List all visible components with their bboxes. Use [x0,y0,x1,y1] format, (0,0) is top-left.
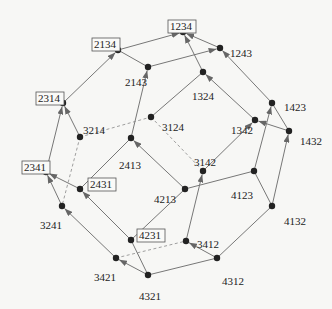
node-label-3421: 3421 [94,271,116,283]
edge-2134-1234 [118,33,180,50]
node-4132 [269,203,275,209]
edge-3421-3412 [116,241,186,258]
node-label-2341: 2341 [24,161,46,173]
edge-1243-1234 [186,33,220,48]
node-label-1234: 1234 [170,20,193,32]
node-3124 [148,114,154,120]
edge-2431-2341 [49,174,80,189]
edge-4123-1423 [254,106,271,171]
edge-3412-3142 [186,174,202,241]
edge-3214-3241 [62,137,80,206]
node-3142 [200,168,206,174]
node-label-2314: 2314 [38,92,61,104]
node-1243 [217,45,223,51]
labels-layer: 1234213412432143132423143214312414231342… [22,20,322,302]
node-label-2431: 2431 [90,178,112,190]
node-label-3412: 3412 [197,238,219,250]
edge-4321-4312 [148,258,217,275]
node-label-4123: 4123 [231,189,254,201]
node-label-4132: 4132 [284,215,306,227]
permutohedron-diagram: 1234213412432143132423143214312414231342… [0,0,332,309]
edge-4321-3421 [119,260,148,275]
node-label-2143: 2143 [125,76,148,88]
edge-4213-2413 [134,140,185,189]
node-4213 [182,186,188,192]
diagram-canvas: 1234213412432143132423143214312414231342… [0,0,332,309]
node-label-3124: 3124 [162,121,185,133]
node-label-3241: 3241 [40,219,62,231]
node-label-3214: 3214 [83,124,106,136]
node-label-4321: 4321 [139,290,161,302]
node-1342 [252,117,258,123]
node-3412 [183,238,189,244]
edge-3241-2341 [47,175,62,206]
node-4231 [128,237,134,243]
node-label-4312: 4312 [222,275,244,287]
node-2413 [128,135,134,141]
node-label-1432: 1432 [300,135,322,147]
node-3421 [113,255,119,261]
edge-3214-2314 [65,106,80,137]
node-4123 [251,168,257,174]
edge-4132-4312 [217,206,272,258]
node-label-2413: 2413 [119,159,142,171]
node-label-1423: 1423 [284,101,307,113]
node-2431 [77,186,83,192]
edge-3421-3241 [65,208,116,258]
node-label-4213: 4213 [154,193,177,205]
node-label-1324: 1324 [192,90,215,102]
edge-4123-4132 [254,171,272,206]
nodes-layer [43,29,292,278]
node-label-3142: 3142 [194,156,216,168]
node-1423 [269,100,275,106]
node-1432 [286,128,292,134]
node-4312 [214,255,220,261]
edge-4231-4321 [131,240,148,275]
node-3241 [59,203,65,209]
node-label-2134: 2134 [94,38,117,50]
node-1324 [200,69,206,75]
edge-2143-1243 [148,49,217,67]
edge-4213-4123 [185,171,254,189]
node-label-4231: 4231 [139,229,161,241]
edge-2134-2143 [118,50,148,67]
node-2143 [145,64,151,70]
node-label-1342: 1342 [231,124,253,136]
edge-2314-2134 [63,52,115,103]
edges-layer [46,33,289,275]
node-4321 [145,272,151,278]
edge-4132-1432 [272,134,288,206]
node-label-1243: 1243 [230,47,253,59]
